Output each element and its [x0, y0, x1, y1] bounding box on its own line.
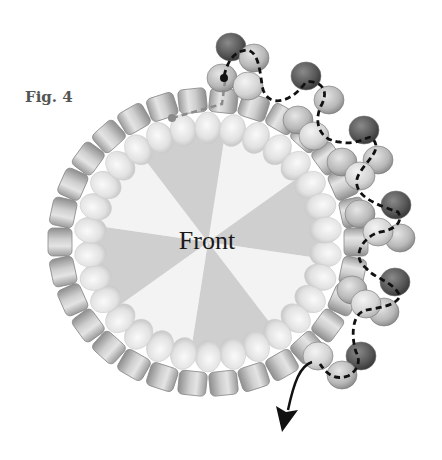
- front-label: Front: [162, 226, 252, 256]
- beading-diagram: Fig. 4 Front: [0, 0, 442, 460]
- figure-label: Fig. 4: [25, 88, 73, 106]
